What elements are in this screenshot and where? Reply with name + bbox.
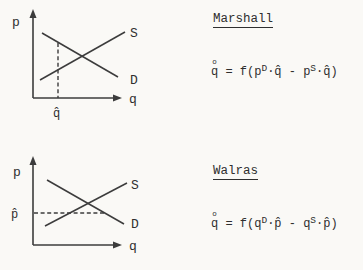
term1-tail: ·p̂ - (267, 217, 303, 231)
x-axis-label: q (129, 92, 137, 107)
y-axis-arrow-icon (30, 156, 37, 165)
demand-label: D (130, 73, 138, 88)
q-hat-label: q̂ (53, 107, 60, 121)
x-axis-arrow-icon (113, 241, 122, 248)
walras-title: Walras (213, 165, 258, 180)
x-axis-arrow-icon (113, 94, 122, 101)
marshall-title: Marshall (213, 13, 273, 28)
demand-curve (47, 180, 124, 224)
term1-superscript: D (261, 63, 267, 74)
scanned-page: p q S D q̂ p q S D p̂ Marshall oq = f(pD… (0, 0, 363, 270)
demand-label: D (131, 217, 139, 232)
q-dot-lhs: oq (211, 217, 218, 231)
marshall-diagram: p q S D q̂ (0, 0, 180, 130)
supply-label: S (131, 178, 139, 193)
q-dot-lhs: oq (211, 65, 218, 79)
x-axis-label: q (129, 239, 137, 254)
ring-accent: o (212, 59, 217, 67)
supply-label: S (130, 26, 138, 41)
walras-diagram: p q S D p̂ (0, 150, 180, 265)
p-hat-label: p̂ (11, 208, 18, 222)
equals-f-open: = f( (218, 217, 254, 231)
ring-accent: o (212, 211, 217, 219)
term2-tail: ·p̂) (316, 217, 338, 231)
y-axis-label: p (12, 15, 20, 30)
term2-tail: ·q̂) (316, 65, 338, 79)
term1-tail: ·q̂ - (267, 65, 303, 79)
equals-f-open: = f( (218, 65, 254, 79)
term2-superscript: S (310, 63, 316, 74)
y-axis-label: p (13, 165, 21, 180)
demand-curve (42, 33, 118, 77)
walras-equation: oq = f(qD·p̂ - qS·p̂) (211, 217, 338, 232)
supply-curve (45, 183, 127, 226)
lhs-base: q (211, 65, 218, 79)
marshall-equation: oq = f(pD·q̂ - pS·q̂) (211, 65, 338, 80)
term1-superscript: D (261, 215, 267, 226)
lhs-base: q (211, 217, 218, 231)
term2-superscript: S (310, 215, 316, 226)
y-axis-arrow-icon (30, 9, 37, 18)
